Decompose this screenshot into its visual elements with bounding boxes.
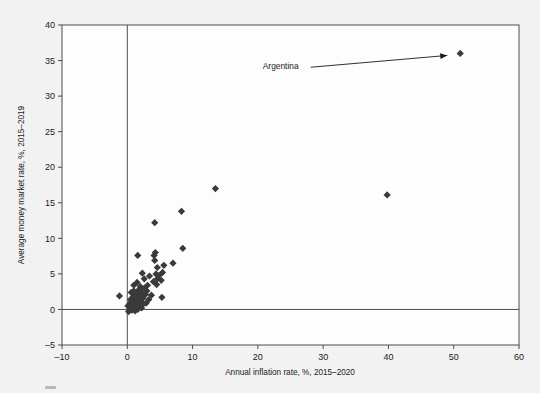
x-tick-label: 20: [253, 352, 263, 362]
x-tick-label: –10: [54, 352, 69, 362]
annotation-label: Argentina: [263, 61, 299, 71]
scatter-chart: –100102030405060 –50510152025303540 Arge…: [0, 0, 540, 393]
x-tick-label: 30: [318, 352, 328, 362]
y-tick-label: 25: [45, 127, 55, 137]
y-tick-label: 30: [45, 91, 55, 101]
y-tick-label: 20: [45, 162, 55, 172]
y-tick-label: 15: [45, 198, 55, 208]
x-tick-label: 10: [188, 352, 198, 362]
x-tick-label: 50: [449, 352, 459, 362]
y-tick-label: 40: [45, 20, 55, 30]
x-tick-label: 40: [383, 352, 393, 362]
y-tick-label: 0: [50, 305, 55, 315]
x-tick-label: 0: [125, 352, 130, 362]
y-tick-label: 5: [50, 269, 55, 279]
x-axis-title: Annual inflation rate, %, 2015–2020: [225, 368, 355, 377]
y-axis-title: Average money market rate, %, 2015–2019: [17, 105, 26, 264]
y-tick-label: –5: [45, 340, 55, 350]
y-tick-label: 10: [45, 234, 55, 244]
figure-container: –100102030405060 –50510152025303540 Arge…: [0, 0, 540, 393]
y-tick-label: 35: [45, 56, 55, 66]
page-smudge-mark: [45, 386, 56, 389]
x-tick-label: 60: [514, 352, 524, 362]
